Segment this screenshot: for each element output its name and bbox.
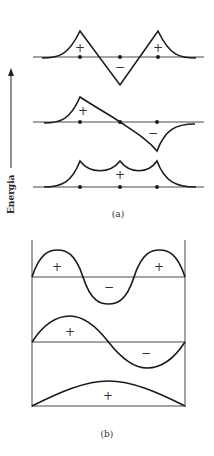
atom-dot bbox=[155, 120, 159, 124]
energy-axis-label: Energia bbox=[6, 174, 16, 214]
panel-a-level-top: + − + bbox=[33, 31, 204, 85]
arrow-up-icon bbox=[8, 68, 14, 76]
sign-plus: + bbox=[75, 41, 85, 55]
atom-dot bbox=[78, 55, 82, 59]
sign-plus: + bbox=[115, 168, 125, 182]
panel-b-level-bottom: + bbox=[32, 381, 185, 406]
panel-a-caption: (a) bbox=[112, 209, 124, 219]
atom-dot bbox=[118, 55, 122, 59]
sign-minus: − bbox=[104, 280, 114, 294]
panel-b-level-top: + − + bbox=[32, 250, 185, 304]
atom-dot bbox=[155, 185, 159, 189]
panel-b-level-middle: + − bbox=[32, 316, 185, 368]
panel-a-level-bottom: + bbox=[33, 161, 204, 189]
atom-dot bbox=[118, 185, 122, 189]
sign-minus: − bbox=[148, 126, 158, 140]
sign-plus: + bbox=[103, 389, 113, 403]
energy-axis: Energia bbox=[6, 68, 16, 214]
sign-plus: + bbox=[78, 104, 88, 118]
sign-plus: + bbox=[153, 41, 163, 55]
atom-dot bbox=[78, 120, 82, 124]
panel-a: + − + + − + (a) bbox=[33, 31, 204, 219]
atom-dot bbox=[118, 120, 122, 124]
sign-plus: + bbox=[154, 260, 164, 274]
sign-plus: + bbox=[65, 325, 75, 339]
atom-dot bbox=[156, 55, 160, 59]
energy-level-diagram: Energia + − + + − bbox=[0, 0, 214, 456]
panel-b: + − + + − + (b) bbox=[32, 240, 185, 439]
sign-plus: + bbox=[52, 260, 62, 274]
sign-minus: − bbox=[141, 346, 151, 360]
wavefunction-curve bbox=[44, 97, 195, 151]
sign-minus: − bbox=[115, 60, 125, 74]
panel-a-level-middle: + − bbox=[33, 97, 204, 151]
atom-dot bbox=[78, 185, 82, 189]
panel-b-caption: (b) bbox=[101, 429, 114, 439]
